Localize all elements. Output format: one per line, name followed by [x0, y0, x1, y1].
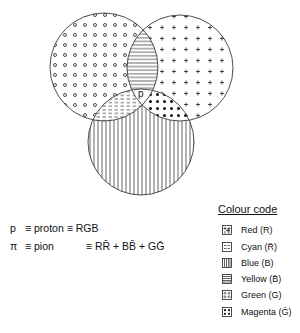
- swatch-filled-dots-icon: [222, 307, 232, 317]
- pion-equation: π ≡ pion ≡ RR̄ + BB̄ + GḠ: [10, 240, 164, 252]
- swatch-plus-icon: [222, 225, 232, 235]
- legend-label: Blue (B): [241, 258, 274, 268]
- legend-label: Yellow (B̄): [241, 274, 281, 284]
- venn-diagram: [0, 0, 300, 200]
- swatch-dashes-icon: [222, 242, 232, 252]
- legend-label: Cyan (R̄): [241, 242, 277, 252]
- proton-symbol: p: [10, 222, 22, 234]
- swatch-horizontal-lines-icon: [222, 274, 232, 284]
- legend-item-magenta: Magenta (Ḡ): [222, 306, 292, 318]
- center-label: p: [138, 88, 144, 99]
- proton-text: ≡ proton ≡ RGB: [25, 222, 99, 234]
- legend-item-blue: Blue (B): [222, 257, 274, 269]
- legend-item-yellow: Yellow (B̄): [222, 273, 281, 285]
- legend-label: Red (R): [241, 225, 273, 235]
- legend-item-green: Green (G): [222, 289, 282, 301]
- swatch-vertical-lines-icon: [222, 258, 232, 268]
- proton-equation: p ≡ proton ≡ RGB: [10, 222, 98, 234]
- legend-item-red: Red (R): [222, 224, 273, 236]
- pion-rhs: ≡ RR̄ + BB̄ + GḠ: [86, 240, 164, 252]
- legend-item-cyan: Cyan (R̄): [222, 241, 277, 253]
- legend-label: Magenta (Ḡ): [241, 307, 292, 317]
- swatch-open-circles-icon: [222, 290, 232, 300]
- legend-label: Green (G): [241, 290, 282, 300]
- legend-title: Colour code: [218, 203, 277, 215]
- pion-text: ≡ pion: [25, 240, 83, 252]
- pion-symbol: π: [10, 240, 22, 252]
